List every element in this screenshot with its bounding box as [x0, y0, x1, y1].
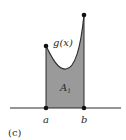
- shaded-area-A1: [46, 15, 84, 108]
- curve-end-point: [82, 13, 87, 18]
- point-b-label: b: [81, 114, 87, 125]
- function-label: g(x): [53, 37, 73, 48]
- point-b: [82, 106, 87, 111]
- figure-caption: (c): [8, 127, 22, 138]
- diagram-canvas: g(x) A1 a b (c): [0, 0, 126, 140]
- area-label-main: A: [59, 82, 67, 93]
- curve-start-point: [44, 44, 49, 49]
- point-a: [44, 106, 49, 111]
- point-a-label: a: [43, 114, 49, 125]
- area-label-sub: 1: [67, 87, 71, 94]
